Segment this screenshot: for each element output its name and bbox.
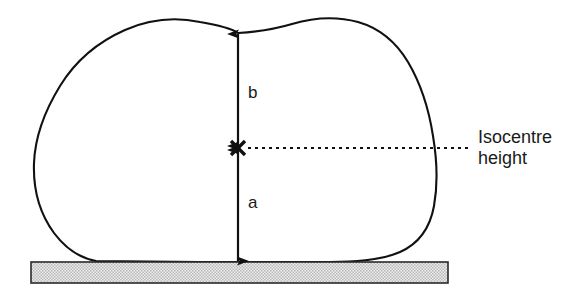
isocentre-callout-line1: Isocentre <box>478 127 552 147</box>
patient-cross-section-outline <box>34 18 437 262</box>
figure-canvas: b a Isocentre height <box>0 0 584 296</box>
isocentre-callout-line2: height <box>478 148 527 168</box>
isocentre-height-diagram: b a Isocentre height <box>0 0 584 296</box>
dimension-label-a: a <box>248 193 258 212</box>
dimension-label-b: b <box>248 83 257 102</box>
treatment-couch-plate <box>31 262 448 283</box>
